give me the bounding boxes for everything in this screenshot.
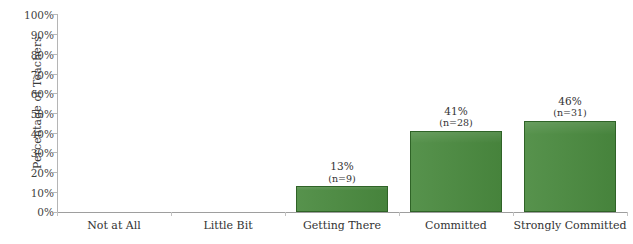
bar-label-committed: 41% (n=28) bbox=[399, 106, 513, 129]
y-tick-label-70: 70% bbox=[14, 70, 54, 80]
x-tick-mark-5 bbox=[627, 212, 628, 216]
x-tick-mark-0 bbox=[57, 212, 58, 216]
bar-slot-little-bit bbox=[171, 14, 285, 212]
bar-pct-getting-there: 13% bbox=[285, 161, 399, 173]
category-label-strongly-committed: Strongly Committed bbox=[513, 219, 627, 232]
bar-slot-committed: 41% (n=28) bbox=[399, 14, 513, 212]
x-tick-mark-3 bbox=[399, 212, 400, 216]
x-axis-line bbox=[57, 212, 627, 213]
y-tick-label-80: 80% bbox=[14, 50, 54, 60]
bar-pct-strongly-committed: 46% bbox=[513, 96, 627, 108]
bar-pct-committed: 41% bbox=[399, 106, 513, 118]
y-tick-label-90: 90% bbox=[14, 30, 54, 40]
x-tick-mark-1 bbox=[171, 212, 172, 216]
bar-n-committed: (n=28) bbox=[399, 117, 513, 129]
category-label-committed: Committed bbox=[399, 219, 513, 232]
bar-n-strongly-committed: (n=31) bbox=[513, 107, 627, 119]
bar-n-getting-there: (n=9) bbox=[285, 173, 399, 185]
bar-slot-strongly-committed: 46% (n=31) bbox=[513, 14, 627, 212]
x-tick-mark-2 bbox=[285, 212, 286, 216]
category-label-getting-there: Getting There bbox=[285, 219, 399, 232]
y-tick-label-20: 20% bbox=[14, 168, 54, 178]
y-tick-label-100: 100% bbox=[14, 10, 54, 20]
y-tick-label-10: 10% bbox=[14, 188, 54, 198]
bar-getting-there[interactable] bbox=[296, 186, 387, 212]
y-tick-label-50: 50% bbox=[14, 109, 54, 119]
bar-label-getting-there: 13% (n=9) bbox=[285, 161, 399, 184]
bar-chart: Percentage of Teachers 100% 90% 80% 70% … bbox=[0, 0, 633, 244]
bar-label-strongly-committed: 46% (n=31) bbox=[513, 96, 627, 119]
bar-sheen bbox=[297, 187, 386, 211]
y-axis-tick-labels: 100% 90% 80% 70% 60% 50% 40% 30% 20% 10%… bbox=[12, 0, 54, 244]
bar-slot-getting-there: 13% (n=9) bbox=[285, 14, 399, 212]
y-tick-label-30: 30% bbox=[14, 148, 54, 158]
bar-sheen bbox=[525, 122, 614, 211]
x-axis-category-labels: Not at All Little Bit Getting There Comm… bbox=[57, 219, 627, 239]
bar-slot-not-at-all bbox=[57, 14, 171, 212]
bar-strongly-committed[interactable] bbox=[524, 121, 615, 212]
y-tick-label-40: 40% bbox=[14, 129, 54, 139]
bar-sheen bbox=[411, 132, 500, 211]
y-tick-label-0: 0% bbox=[14, 207, 54, 217]
plot-area: 13% (n=9) 41% (n=28) 46% (n=31) bbox=[57, 14, 627, 212]
bar-committed[interactable] bbox=[410, 131, 501, 212]
x-tick-mark-4 bbox=[513, 212, 514, 216]
category-label-little-bit: Little Bit bbox=[171, 219, 285, 232]
y-tick-label-60: 60% bbox=[14, 89, 54, 99]
category-label-not-at-all: Not at All bbox=[57, 219, 171, 232]
